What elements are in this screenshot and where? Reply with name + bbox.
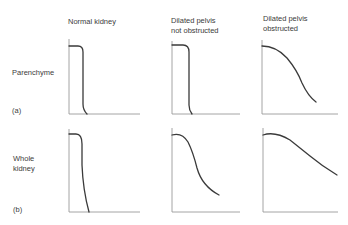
plot-whole-dilated-obstructed xyxy=(263,128,338,212)
plot-whole-normal xyxy=(69,129,140,212)
axes xyxy=(69,39,140,114)
curve xyxy=(69,134,89,212)
plot-parenchyme-dilated-not-obstructed xyxy=(172,41,240,114)
plot-parenchyme-dilated-obstructed xyxy=(262,40,338,114)
axes xyxy=(263,128,338,212)
axes xyxy=(69,129,140,212)
axes xyxy=(172,41,240,114)
renogram-grid xyxy=(0,0,348,225)
curve xyxy=(172,45,192,114)
curve xyxy=(172,134,219,195)
curve xyxy=(69,46,87,114)
curve xyxy=(262,46,316,102)
plot-whole-dilated-not-obstructed xyxy=(172,128,240,212)
plot-parenchyme-normal xyxy=(69,39,140,114)
axes xyxy=(172,128,240,212)
curve xyxy=(263,134,337,175)
